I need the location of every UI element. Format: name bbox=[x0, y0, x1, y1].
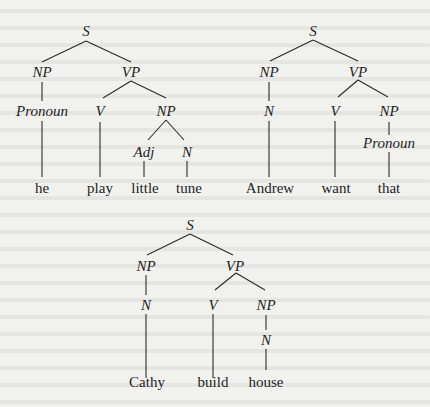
tree-cathy-build-house: S NP VP N V NP N Cathy build house bbox=[129, 217, 284, 390]
node-v: V bbox=[95, 103, 106, 119]
node-s: S bbox=[82, 23, 90, 39]
leaf-word-want: want bbox=[321, 180, 351, 196]
tree-andrew-want-that: S NP VP N V NP Pronoun Andrew want that bbox=[246, 23, 415, 196]
node-vp: VP bbox=[122, 64, 140, 80]
node-np: NP bbox=[31, 64, 51, 80]
node-s: S bbox=[186, 217, 194, 233]
leaf-word-build: build bbox=[198, 374, 229, 390]
node-n-object: N bbox=[260, 332, 272, 348]
node-v: V bbox=[330, 103, 341, 119]
node-pronoun: Pronoun bbox=[362, 135, 415, 151]
node-np-object: NP bbox=[255, 297, 275, 313]
leaf-word-little: little bbox=[131, 180, 159, 196]
node-np-object: NP bbox=[155, 103, 175, 119]
leaf-word-he: he bbox=[35, 180, 50, 196]
node-n: N bbox=[181, 144, 193, 160]
node-n: N bbox=[263, 103, 275, 119]
node-vp: VP bbox=[349, 64, 367, 80]
node-adj: Adj bbox=[133, 144, 155, 160]
node-v: V bbox=[208, 297, 219, 313]
syntax-tree-diagram: S NP VP Pronoun V NP Adj N he play littl… bbox=[0, 0, 430, 407]
node-np: NP bbox=[135, 258, 155, 274]
leaf-word-play: play bbox=[87, 180, 113, 196]
node-n: N bbox=[140, 297, 152, 313]
node-np: NP bbox=[258, 64, 278, 80]
leaf-word-cathy: Cathy bbox=[129, 374, 165, 390]
leaf-word-tune: tune bbox=[176, 180, 202, 196]
node-s: S bbox=[309, 23, 317, 39]
node-np-object: NP bbox=[378, 103, 398, 119]
node-pronoun: Pronoun bbox=[15, 103, 68, 119]
leaf-word-house: house bbox=[249, 374, 284, 390]
leaf-word-andrew: Andrew bbox=[246, 180, 294, 196]
tree-he-play-little-tune: S NP VP Pronoun V NP Adj N he play littl… bbox=[15, 23, 202, 196]
node-vp: VP bbox=[226, 258, 244, 274]
leaf-word-that: that bbox=[378, 180, 401, 196]
